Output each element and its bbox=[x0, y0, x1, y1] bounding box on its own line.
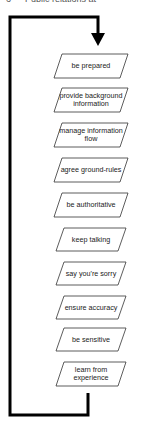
step-label-7: say you're sorry bbox=[60, 262, 122, 285]
arrow-down-icon bbox=[91, 33, 105, 46]
step-label-8: ensure accuracy bbox=[60, 296, 122, 319]
step-label-2: provide background information bbox=[58, 88, 124, 112]
step-label-1: be prepared bbox=[58, 54, 124, 78]
step-label-4: agree ground-rules bbox=[58, 158, 124, 182]
step-label-6: keep talking bbox=[60, 228, 122, 251]
step-label-10: learn from experience bbox=[66, 362, 116, 386]
step-label-3: manage information flow bbox=[58, 123, 124, 147]
step-label-5: be authoritative bbox=[58, 193, 124, 217]
step-label-9: be sensitive bbox=[60, 328, 122, 351]
